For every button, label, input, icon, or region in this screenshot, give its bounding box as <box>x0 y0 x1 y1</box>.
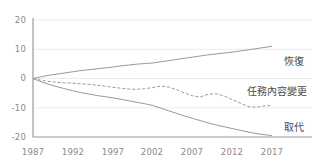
y-tick-10: 10 <box>2 44 26 54</box>
series-line-task-change <box>33 79 272 108</box>
y-tick-0: 0 <box>2 73 26 83</box>
series-label-task-change: 任務內容變更 <box>247 86 307 97</box>
series-label-replacement: 取代 <box>284 122 304 133</box>
x-tick-2002: 2002 <box>132 147 172 157</box>
series-line-replacement <box>33 79 272 136</box>
x-tick-1997: 1997 <box>93 147 133 157</box>
chart-container: 20 10 0 -10 -20 1987 1992 1997 2002 2007… <box>0 0 319 167</box>
series-label-recovery: 恢復 <box>284 56 304 67</box>
y-tick-minus10: -10 <box>2 103 26 113</box>
x-tick-2017: 2017 <box>252 147 292 157</box>
x-tick-1987: 1987 <box>13 147 53 157</box>
x-tick-2012: 2012 <box>212 147 252 157</box>
y-tick-20: 20 <box>2 15 26 25</box>
y-tick-minus20: -20 <box>2 132 26 142</box>
x-tick-2007: 2007 <box>172 147 212 157</box>
series-line-recovery <box>33 46 272 78</box>
chart-plot-area <box>0 0 319 167</box>
x-tick-1992: 1992 <box>53 147 93 157</box>
